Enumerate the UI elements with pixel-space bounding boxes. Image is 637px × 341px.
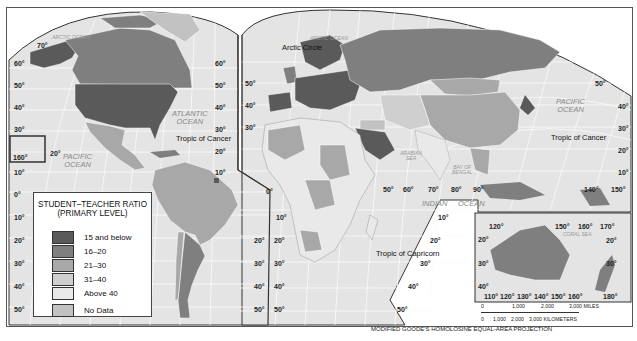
lat-label: 20°	[14, 237, 25, 244]
lon-label-160: 160°	[13, 154, 27, 161]
arctic-ocean-west-label: ARCTIC OCEAN	[52, 35, 90, 40]
guyana	[214, 178, 219, 183]
lat-label: 30°	[14, 126, 25, 133]
lat-label: 50°	[14, 82, 25, 89]
legend-swatch	[52, 304, 74, 317]
lat-label: 20°	[215, 148, 226, 155]
pacific-ocean-east-label: PACIFICOCEAN	[556, 98, 585, 114]
lon-label: 170°	[600, 223, 614, 230]
lat-label: 40°	[14, 104, 25, 111]
legend-swatch	[52, 273, 74, 286]
lat-label: 70°	[37, 42, 48, 49]
lat-label: 50°	[274, 306, 285, 313]
legend-item-31-40: 31–40	[52, 272, 106, 286]
lat-label: 10°	[438, 214, 449, 221]
lat-label: 20°	[606, 237, 617, 244]
lat-label: 30°	[420, 260, 431, 267]
legend-swatch	[52, 259, 74, 272]
lon-label: 70°	[428, 186, 439, 193]
lat-label: 50°	[245, 80, 256, 87]
scale-miles: 0 1,000 2,000 3,000 MILES	[481, 303, 631, 312]
lat-label: 30°	[254, 260, 265, 267]
lat-label: 10°	[618, 169, 629, 176]
indian-ocean-label: INDIAN	[422, 200, 447, 208]
lat-label: 30°	[478, 260, 489, 267]
legend-item-15-and-below: 15 and below	[52, 230, 132, 244]
atlantic-ocean-label: ATLANTICOCEAN	[172, 110, 208, 126]
lon-label: 50°	[383, 186, 394, 193]
arctic-ocean-east-label: ARCTIC OCEAN	[310, 36, 348, 41]
tropic-of-cancer-east-label: Tropic of Cancer	[551, 134, 606, 142]
lat-label: 50°	[254, 306, 265, 313]
legend-swatch	[52, 245, 74, 258]
lat-label: 10°	[276, 214, 287, 221]
lon-label: 140°	[584, 186, 598, 193]
lon-label: 150°	[551, 293, 565, 300]
lat-label: 40°	[274, 283, 285, 290]
legend: STUDENT–TEACHER RATIO (PRIMARY LEVEL) 15…	[33, 192, 152, 317]
lat-label: 0°	[14, 191, 21, 198]
lat-label: 30°	[606, 260, 617, 267]
tropic-of-cancer-west-label: Tropic of Cancer	[176, 135, 231, 143]
legend-title: STUDENT–TEACHER RATIO (PRIMARY LEVEL)	[34, 200, 151, 219]
lat-label: 40°	[618, 103, 629, 110]
legend-swatch	[52, 287, 74, 300]
lon-label: 80°	[451, 186, 462, 193]
lon-label: 90°	[473, 186, 484, 193]
lat-label: 20°	[618, 147, 629, 154]
lon-label: 60°	[403, 186, 414, 193]
lon-label: 160°	[568, 293, 582, 300]
lon-label: 150°	[611, 186, 625, 193]
lat-label-20: 20°	[50, 150, 61, 157]
arctic-circle-label: Arctic Circle	[282, 44, 322, 52]
lat-label: 10°	[14, 214, 25, 221]
lat-label: 20°	[478, 236, 489, 243]
lat-label: 20°	[430, 237, 441, 244]
legend-item-no-data: No Data	[52, 303, 113, 317]
lat-label: 50°	[14, 306, 25, 313]
lon-label: 150°	[555, 223, 569, 230]
legend-item-16-20: 16–20	[52, 244, 106, 258]
lat-label: 30°	[14, 260, 25, 267]
lat-label: 40°	[254, 283, 265, 290]
lon-label: 140°	[534, 293, 548, 300]
equator-label: 0°	[266, 188, 273, 195]
lon-label: 130°	[517, 293, 531, 300]
lon-label: 110°	[484, 293, 498, 300]
lon-label: 180°	[603, 293, 617, 300]
lat-label: 10°	[215, 169, 226, 176]
projection-caption: MODIFIED GOODE'S HOMOLOSINE EQUAL-AREA P…	[371, 326, 552, 332]
lat-label: 40°	[245, 102, 256, 109]
lat-label: 30°	[215, 126, 226, 133]
legend-swatch	[52, 231, 74, 244]
tropic-of-capricorn-label: Tropic of Capricorn	[376, 250, 440, 258]
lat-label: 20°	[254, 237, 265, 244]
scale-km: 0 1,000 2,000 3,000 KILOMETERS	[481, 316, 631, 324]
indian-ocean-label-2: OCEAN	[458, 200, 485, 208]
bay-of-bengal-label: BAY OFBENGAL	[452, 165, 472, 176]
lat-label: 20°	[274, 237, 285, 244]
lon-label: 120°	[500, 293, 514, 300]
scale-bar: 0 1,000 2,000 3,000 MILES 0 1,000 2,000 …	[481, 303, 631, 324]
lon-label: 160°	[578, 223, 592, 230]
lon-label: 120°	[489, 223, 503, 230]
lat-label: 40°	[408, 283, 419, 290]
turkey	[360, 120, 385, 130]
coral-sea-label: CORAL SEA	[563, 232, 592, 237]
lat-label: 30°	[245, 124, 256, 131]
lat-label: 30°	[274, 260, 285, 267]
lat-label: 40°	[215, 104, 226, 111]
lat-label: 50°	[595, 80, 606, 87]
lat-label: 30°	[618, 125, 629, 132]
legend-item-21-30: 21–30	[52, 258, 106, 272]
lat-label: 50°	[215, 82, 226, 89]
lat-label: 10°	[14, 169, 25, 176]
lat-label: 50°	[397, 306, 408, 313]
lat-label: 60°	[215, 60, 226, 67]
lat-label: 60°	[14, 60, 25, 67]
legend-item-above-40: Above 40	[52, 286, 118, 300]
pacific-ocean-west-label: PACIFICOCEAN	[63, 153, 92, 169]
lat-label: 40°	[478, 283, 489, 290]
arabian-sea-label: ARABIANSEA	[400, 151, 422, 162]
lat-label: 40°	[14, 283, 25, 290]
